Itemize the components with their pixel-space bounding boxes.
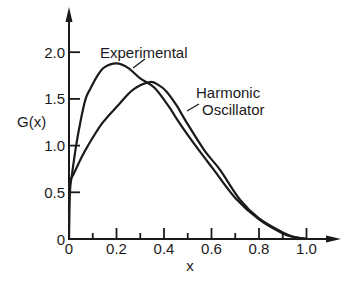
y-tick-label: 0.5 [44,184,65,201]
x-tick-label: 0 [65,240,73,257]
plot-curves [69,63,307,239]
x-tick-label: 0.2 [106,240,127,257]
annotation-harmonic-leader [187,104,199,111]
annotation-experimental-text: Experimental [100,44,188,61]
annotation-harmonic-oscillator: Harmonic Oscillator [187,84,265,118]
x-tick-label: 1.0 [296,240,317,257]
x-axis-arrow-icon [326,236,341,243]
curve-harmonic-oscillator [69,82,307,239]
line-chart: 00.51.01.52.0 00.20.40.60.81.0 G(x) x Ex… [0,0,351,283]
chart-figure: 00.51.01.52.0 00.20.40.60.81.0 G(x) x Ex… [0,0,351,283]
y-tick-label: 2.0 [44,44,65,61]
y-axis-arrow-icon [66,7,73,22]
x-axis-label: x [186,257,194,274]
y-tick-label: 0 [57,231,65,248]
x-tick-label: 0.8 [249,240,270,257]
x-tick-label: 0.6 [201,240,222,257]
y-tick-label: 1.5 [44,90,65,107]
annotation-harmonic-line1: Harmonic [196,84,261,101]
axes [66,7,342,243]
y-axis-label: G(x) [17,113,46,130]
x-tick-label: 0.4 [154,240,175,257]
y-axis-ticks: 00.51.01.52.0 [44,44,80,248]
curve-experimental [69,63,307,239]
y-tick-label: 1.0 [44,137,65,154]
annotation-harmonic-line2: Oscillator [202,101,265,118]
